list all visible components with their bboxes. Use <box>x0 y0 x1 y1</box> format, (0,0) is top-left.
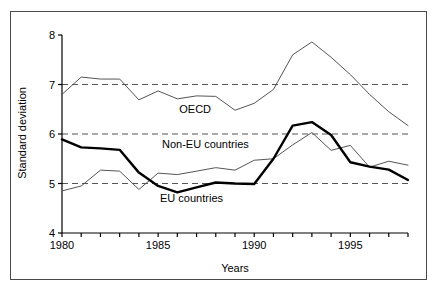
series-label-eu-countries: EU countries <box>160 192 223 204</box>
series-label-oecd: OECD <box>179 103 211 115</box>
y-axis-title: Standard deviation <box>16 87 28 179</box>
series-annotations: OECDNon-EU countriesEU countries <box>160 103 249 204</box>
x-tick-label-1985: 1985 <box>146 239 170 251</box>
series-line-oecd <box>62 42 408 126</box>
line-chart-plot: 45678 1980198519901995 OECDNon-EU countr… <box>0 0 438 293</box>
x-tick-label-1990: 1990 <box>242 239 266 251</box>
y-tick-label-8: 8 <box>49 29 55 41</box>
y-tick-label-5: 5 <box>49 178 55 190</box>
y-axis: 45678 <box>49 29 62 239</box>
x-axis: 1980198519901995 <box>50 233 408 251</box>
series-label-non-eu-countries: Non-EU countries <box>162 138 249 150</box>
y-tick-label-6: 6 <box>49 128 55 140</box>
series-line-eu-countries <box>62 122 408 192</box>
y-tick-label-7: 7 <box>49 79 55 91</box>
x-tick-label-1980: 1980 <box>50 239 74 251</box>
data-series <box>62 42 408 192</box>
gridlines <box>62 85 408 184</box>
x-axis-title: Years <box>221 262 249 274</box>
chart-figure: 45678 1980198519901995 OECDNon-EU countr… <box>0 0 438 293</box>
y-tick-label-4: 4 <box>49 227 55 239</box>
x-tick-label-1995: 1995 <box>338 239 362 251</box>
